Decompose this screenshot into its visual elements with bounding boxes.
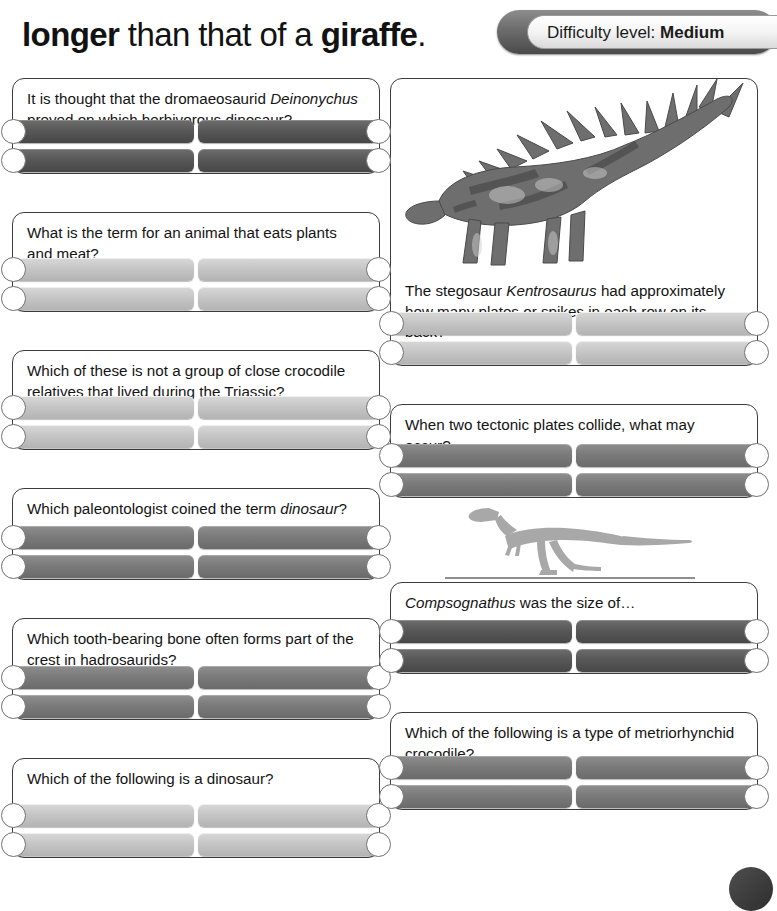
answer-row-ab bbox=[379, 618, 769, 645]
answer-option-c[interactable] bbox=[392, 473, 572, 496]
answer-row-ab bbox=[1, 664, 391, 691]
answer-letter-b[interactable] bbox=[744, 443, 769, 468]
answer-row-cd bbox=[1, 423, 391, 450]
answer-letter-c[interactable] bbox=[1, 286, 26, 311]
answer-letter-a[interactable] bbox=[1, 119, 26, 144]
answer-row-ab bbox=[1, 256, 391, 283]
answer-option-b[interactable] bbox=[198, 666, 378, 689]
answer-letter-c[interactable] bbox=[379, 472, 404, 497]
question-card-18: When two tectonic plates collide, what m… bbox=[390, 404, 758, 498]
answer-option-b[interactable] bbox=[576, 312, 756, 335]
answer-option-c[interactable] bbox=[14, 425, 194, 448]
answer-option-c[interactable] bbox=[392, 785, 572, 808]
answer-letter-a[interactable] bbox=[379, 619, 404, 644]
answer-option-a[interactable] bbox=[14, 526, 194, 549]
answer-letter-b[interactable] bbox=[366, 257, 391, 282]
question-text: Compsognathus was the size of… bbox=[391, 583, 757, 618]
answer-option-b[interactable] bbox=[198, 526, 378, 549]
answer-option-b[interactable] bbox=[198, 804, 378, 827]
difficulty-label: Difficulty level: bbox=[547, 23, 655, 42]
answer-letter-a[interactable] bbox=[1, 257, 26, 282]
answer-letter-d[interactable] bbox=[744, 648, 769, 673]
answer-letter-b[interactable] bbox=[744, 311, 769, 336]
answer-letter-d[interactable] bbox=[366, 832, 391, 857]
answer-option-c[interactable] bbox=[14, 695, 194, 718]
answer-letter-a[interactable] bbox=[379, 443, 404, 468]
answer-grid bbox=[379, 754, 769, 810]
answer-letter-b[interactable] bbox=[366, 395, 391, 420]
answer-letter-d[interactable] bbox=[744, 472, 769, 497]
answer-option-b[interactable] bbox=[198, 396, 378, 419]
answer-letter-d[interactable] bbox=[366, 148, 391, 173]
answer-letter-c[interactable] bbox=[379, 784, 404, 809]
answer-letter-d[interactable] bbox=[744, 784, 769, 809]
answer-option-a[interactable] bbox=[392, 620, 572, 643]
answer-option-a[interactable] bbox=[14, 666, 194, 689]
answer-grid bbox=[1, 394, 391, 450]
answer-option-d[interactable] bbox=[576, 341, 756, 364]
answer-letter-d[interactable] bbox=[366, 694, 391, 719]
answer-option-b[interactable] bbox=[576, 620, 756, 643]
answer-letter-b[interactable] bbox=[744, 755, 769, 780]
answer-letter-a[interactable] bbox=[1, 525, 26, 550]
answer-row-cd bbox=[1, 693, 391, 720]
answer-option-d[interactable] bbox=[198, 425, 378, 448]
answer-option-a[interactable] bbox=[392, 312, 572, 335]
answer-letter-a[interactable] bbox=[379, 311, 404, 336]
answer-letter-a[interactable] bbox=[1, 395, 26, 420]
answer-option-b[interactable] bbox=[576, 444, 756, 467]
answer-row-cd bbox=[1, 553, 391, 580]
answer-letter-c[interactable] bbox=[1, 148, 26, 173]
answer-option-d[interactable] bbox=[198, 833, 378, 856]
answer-letter-c[interactable] bbox=[1, 832, 26, 857]
answer-option-c[interactable] bbox=[14, 555, 194, 578]
answer-letter-b[interactable] bbox=[366, 119, 391, 144]
answer-option-d[interactable] bbox=[576, 473, 756, 496]
answer-option-d[interactable] bbox=[198, 555, 378, 578]
answer-option-a[interactable] bbox=[392, 444, 572, 467]
answer-option-a[interactable] bbox=[392, 756, 572, 779]
answer-option-d[interactable] bbox=[198, 287, 378, 310]
left-question-column: It is thought that the dromaeosaurid Dei… bbox=[12, 78, 380, 858]
answer-letter-a[interactable] bbox=[1, 803, 26, 828]
answer-letter-c[interactable] bbox=[1, 554, 26, 579]
answer-option-c[interactable] bbox=[392, 341, 572, 364]
answer-letter-d[interactable] bbox=[366, 554, 391, 579]
question-body: Which tooth-bearing bone often forms par… bbox=[27, 630, 354, 668]
question-body: Which of the following is a dinosaur? bbox=[27, 770, 274, 787]
answer-row-cd bbox=[379, 471, 769, 498]
answer-option-d[interactable] bbox=[198, 149, 378, 172]
answer-letter-c[interactable] bbox=[379, 648, 404, 673]
answer-option-d[interactable] bbox=[198, 695, 378, 718]
answer-option-c[interactable] bbox=[14, 287, 194, 310]
answer-letter-c[interactable] bbox=[1, 694, 26, 719]
answer-option-c[interactable] bbox=[14, 149, 194, 172]
answer-grid bbox=[1, 802, 391, 858]
answer-letter-b[interactable] bbox=[366, 525, 391, 550]
answer-option-c[interactable] bbox=[14, 833, 194, 856]
answer-letter-a[interactable] bbox=[1, 665, 26, 690]
question-card-14: Which paleontologist coined the term din… bbox=[12, 488, 380, 580]
answer-letter-c[interactable] bbox=[1, 424, 26, 449]
answer-option-a[interactable] bbox=[14, 804, 194, 827]
answer-letter-d[interactable] bbox=[366, 286, 391, 311]
answer-option-b[interactable] bbox=[576, 756, 756, 779]
answer-option-c[interactable] bbox=[392, 649, 572, 672]
compsognathus-icon bbox=[445, 498, 695, 582]
page-header: longer than that of a giraffe. Difficult… bbox=[0, 0, 759, 70]
answer-option-a[interactable] bbox=[14, 258, 194, 281]
answer-row-ab bbox=[379, 442, 769, 469]
answer-letter-b[interactable] bbox=[744, 619, 769, 644]
answer-letter-a[interactable] bbox=[379, 755, 404, 780]
answer-option-a[interactable] bbox=[14, 396, 194, 419]
difficulty-badge: Difficulty level: Medium bbox=[497, 10, 777, 54]
answer-option-b[interactable] bbox=[198, 120, 378, 143]
answer-option-b[interactable] bbox=[198, 258, 378, 281]
answer-letter-c[interactable] bbox=[379, 340, 404, 365]
answer-option-d[interactable] bbox=[576, 785, 756, 808]
answer-letter-d[interactable] bbox=[744, 340, 769, 365]
answer-option-a[interactable] bbox=[14, 120, 194, 143]
answer-option-d[interactable] bbox=[576, 649, 756, 672]
question-body: Compsognathus was the size of… bbox=[405, 594, 635, 611]
answer-row-cd bbox=[379, 647, 769, 674]
